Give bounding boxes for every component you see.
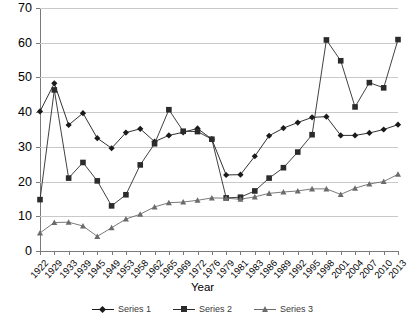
x-tick-mark-1981	[240, 251, 241, 255]
x-tick-mark-1992	[298, 251, 299, 255]
data-point	[366, 130, 372, 136]
series-line-1	[40, 83, 398, 175]
x-tick-mark-2013	[398, 251, 399, 255]
data-point	[280, 125, 286, 131]
y-tick-label-0: 0	[2, 245, 32, 258]
data-point	[381, 85, 387, 91]
x-tick-mark-1929	[54, 251, 55, 255]
legend-entry-3: Series 3	[254, 304, 313, 314]
data-point	[295, 119, 301, 125]
x-tick-mark-1965	[169, 251, 170, 255]
series-2	[37, 37, 401, 209]
data-point	[395, 37, 401, 43]
legend-entry-2: Series 2	[173, 304, 232, 314]
y-tick-label-70: 70	[2, 2, 32, 15]
data-point	[66, 175, 72, 181]
x-tick-mark-1953	[126, 251, 127, 255]
data-point	[109, 225, 115, 231]
data-point	[137, 162, 143, 168]
data-point	[51, 80, 57, 86]
data-point	[37, 230, 43, 236]
y-tick-label-20: 20	[2, 175, 32, 188]
legend-marker-diamond-icon	[92, 306, 114, 313]
x-tick-mark-1976	[212, 251, 213, 255]
x-tick-mark-2007	[369, 251, 370, 255]
x-tick-mark-1962	[155, 251, 156, 255]
x-tick-mark-1933	[69, 251, 70, 255]
chart-legend: Series 1Series 2Series 3	[0, 304, 405, 314]
series-3	[37, 171, 401, 239]
data-point	[266, 175, 272, 181]
data-point	[37, 108, 43, 114]
data-point	[223, 172, 229, 178]
x-tick-mark-2010	[384, 251, 385, 255]
y-tick-label-30: 30	[2, 141, 32, 154]
data-point	[381, 179, 387, 185]
legend-label: Series 2	[199, 304, 232, 314]
data-point	[309, 132, 315, 138]
data-point	[52, 87, 58, 93]
x-tick-mark-1983	[255, 251, 256, 255]
data-point	[80, 160, 86, 166]
data-point	[395, 122, 401, 128]
x-tick-mark-2001	[341, 251, 342, 255]
data-point	[352, 132, 358, 138]
series-layer	[40, 8, 398, 251]
data-point	[295, 149, 301, 155]
data-point	[109, 203, 115, 209]
x-tick-mark-1922	[40, 251, 41, 255]
x-tick-mark-1989	[283, 251, 284, 255]
data-point	[367, 80, 373, 86]
y-tick-label-10: 10	[2, 210, 32, 223]
x-tick-mark-1939	[83, 251, 84, 255]
x-axis-line	[40, 251, 398, 252]
data-point	[37, 197, 43, 203]
series-1	[37, 80, 401, 178]
legend-entry-1: Series 1	[92, 304, 151, 314]
data-point	[152, 141, 158, 147]
x-tick-mark-1986	[269, 251, 270, 255]
legend-label: Series 3	[280, 304, 313, 314]
x-tick-mark-1972	[198, 251, 199, 255]
y-tick-label-40: 40	[2, 106, 32, 119]
data-point	[180, 128, 186, 134]
legend-marker-square-icon	[173, 306, 195, 313]
x-tick-mark-1949	[112, 251, 113, 255]
data-point	[352, 104, 358, 110]
x-axis-title: Year	[0, 281, 405, 293]
x-tick-mark-1995	[312, 251, 313, 255]
data-point	[166, 107, 172, 113]
data-point	[137, 211, 143, 217]
data-point	[195, 129, 201, 135]
data-point	[94, 178, 100, 184]
x-tick-mark-1958	[140, 251, 141, 255]
data-point	[324, 37, 330, 43]
plot-area	[40, 8, 398, 251]
data-point	[94, 135, 100, 141]
legend-marker-triangle-icon	[254, 306, 276, 313]
data-point	[338, 58, 344, 64]
y-tick-label-50: 50	[2, 71, 32, 84]
legend-label: Series 1	[118, 304, 151, 314]
x-tick-mark-1969	[183, 251, 184, 255]
data-point	[166, 132, 172, 138]
series-line-3	[40, 174, 398, 236]
data-point	[123, 216, 129, 222]
y-tick-label-60: 60	[2, 36, 32, 49]
x-tick-mark-1945	[97, 251, 98, 255]
series-line-2	[40, 40, 398, 206]
x-tick-mark-2004	[355, 251, 356, 255]
data-point	[338, 191, 344, 197]
data-point	[209, 136, 215, 142]
data-point	[123, 192, 129, 198]
x-tick-mark-1979	[226, 251, 227, 255]
data-point	[266, 133, 272, 139]
data-point	[381, 126, 387, 132]
data-point	[94, 233, 100, 239]
data-point	[252, 188, 258, 194]
data-point	[281, 165, 287, 171]
data-point	[395, 171, 401, 177]
x-tick-mark-1998	[326, 251, 327, 255]
